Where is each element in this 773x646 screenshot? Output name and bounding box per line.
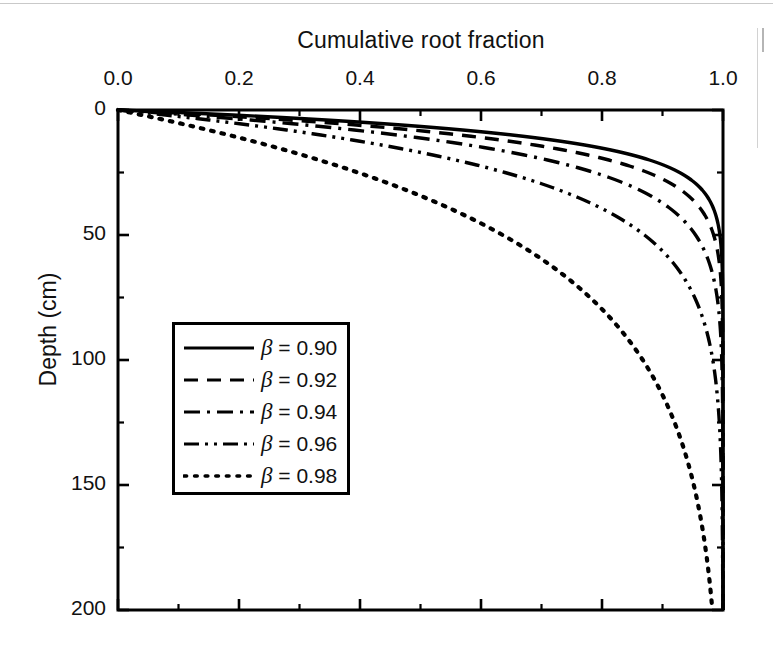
legend-line-sample — [183, 402, 255, 422]
legend-label: β = 0.96 — [261, 431, 337, 457]
legend-value: = 0.96 — [272, 432, 337, 455]
x-tick-label: 0.6 — [451, 66, 511, 90]
legend-value: = 0.90 — [272, 336, 337, 359]
beta-symbol: β — [261, 399, 272, 424]
legend-value: = 0.94 — [272, 400, 337, 423]
beta-symbol: β — [261, 367, 272, 392]
legend: β = 0.90β = 0.92β = 0.94β = 0.96β = 0.98 — [172, 322, 350, 495]
y-tick-label: 100 — [46, 346, 106, 370]
legend-label: β = 0.98 — [261, 463, 337, 489]
legend-item: β = 0.94 — [175, 395, 347, 428]
legend-line-sample — [183, 434, 255, 454]
legend-value: = 0.92 — [272, 368, 337, 391]
legend-label: β = 0.94 — [261, 399, 337, 425]
legend-line-sample — [183, 370, 255, 390]
legend-item: β = 0.98 — [175, 459, 347, 492]
legend-value: = 0.98 — [272, 464, 337, 487]
legend-label: β = 0.90 — [261, 335, 337, 361]
legend-item: β = 0.92 — [175, 363, 347, 396]
legend-line-sample — [183, 338, 255, 358]
x-tick-label: 0.0 — [88, 66, 148, 90]
beta-symbol: β — [261, 431, 272, 456]
y-tick-label: 0 — [46, 96, 106, 120]
beta-symbol: β — [261, 335, 272, 360]
x-tick-label: 0.4 — [330, 66, 390, 90]
legend-label: β = 0.92 — [261, 367, 337, 393]
y-tick-label: 150 — [46, 471, 106, 495]
x-tick-label: 1.0 — [693, 66, 753, 90]
plot-canvas — [0, 0, 773, 646]
x-tick-label: 0.2 — [209, 66, 269, 90]
y-tick-label: 200 — [46, 596, 106, 620]
x-tick-label: 0.8 — [572, 66, 632, 90]
legend-line-sample — [183, 466, 255, 486]
figure-root: Cumulative root fraction Depth (cm) 0.00… — [0, 0, 773, 646]
legend-item: β = 0.96 — [175, 427, 347, 460]
legend-item: β = 0.90 — [175, 331, 347, 364]
beta-symbol: β — [261, 463, 272, 488]
y-tick-label: 50 — [46, 221, 106, 245]
